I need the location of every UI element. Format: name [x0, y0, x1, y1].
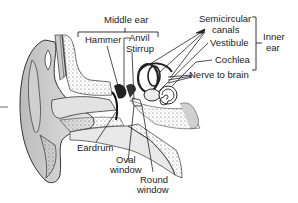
label-eardrum: Eardrum	[77, 143, 113, 153]
label-cochlea: Cochlea	[215, 55, 250, 65]
label-middle-ear: Middle ear	[104, 15, 148, 25]
label-oval-window-line2: window	[110, 165, 142, 175]
inner-ear-bracket	[252, 17, 262, 70]
label-stirrup: Stirrup	[126, 44, 154, 54]
label-anvil: Anvil	[129, 33, 150, 43]
label-semicircular-canals-line2: canals	[212, 25, 239, 35]
label-nerve-to-brain: Nerve to brain	[189, 70, 249, 80]
label-inner-ear-line1: Inner	[263, 32, 285, 42]
label-inner-ear-line2: ear	[266, 43, 280, 53]
label-round-window-line2: window	[137, 185, 169, 195]
vestibule-shape	[144, 89, 160, 101]
label-vestibule: Vestibule	[210, 38, 249, 48]
label-hammer: Hammer	[85, 35, 121, 45]
label-semicircular-canals-line1: Semicircular	[199, 14, 251, 24]
ear-diagram: Middle ear Hammer Anvil Stirrup Semicirc…	[0, 0, 298, 203]
ear-illustration	[0, 0, 298, 203]
